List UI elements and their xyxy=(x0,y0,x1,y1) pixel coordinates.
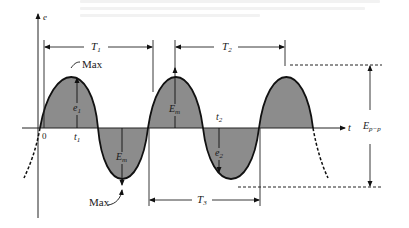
vertical-axis-label: e xyxy=(43,13,47,22)
t2-label: t2 xyxy=(216,112,222,124)
period-t2-label: T2 xyxy=(222,41,232,54)
max-top-label: Max xyxy=(82,59,102,70)
e1-label: e1 xyxy=(73,103,81,115)
em-bottom-label: Em xyxy=(116,152,127,164)
dashed-continuation-right xyxy=(313,128,328,178)
period-t1-label: T1 xyxy=(91,41,101,54)
em-top-label: Em xyxy=(169,104,180,116)
max-bottom-leader xyxy=(108,190,122,205)
period-t3-label: T3 xyxy=(197,194,207,207)
max-top-leader xyxy=(71,62,80,68)
max-bottom-label: Max xyxy=(89,197,109,208)
epp-label: Ep−p xyxy=(363,121,381,133)
horizontal-axis-label: t xyxy=(348,123,351,133)
t1-label: t1 xyxy=(74,132,80,144)
e2-label: e2 xyxy=(215,148,223,160)
origin-label: 0 xyxy=(42,132,47,141)
